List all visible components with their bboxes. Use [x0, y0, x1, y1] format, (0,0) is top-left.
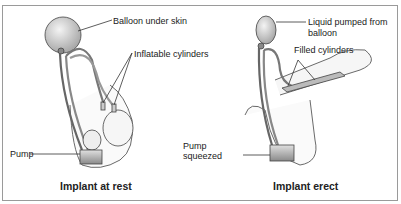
- label-pump-squeezed-line1: Pump: [183, 141, 207, 151]
- caption-implant-at-rest: Implant at rest: [60, 180, 132, 192]
- label-liquid-pumped-line2: balloon: [308, 28, 337, 38]
- label-liquid-pumped-line1: Liquid pumped from: [308, 17, 388, 27]
- label-pump: Pump: [10, 149, 34, 159]
- label-pump-squeezed-line2: squeezed: [183, 151, 222, 161]
- erect-illustration: [243, 16, 371, 165]
- implant-illustration: [0, 0, 401, 204]
- rest-illustration: [30, 17, 133, 168]
- label-filled-cylinders: Filled cylinders: [294, 45, 354, 55]
- caption-implant-erect: Implant erect: [273, 180, 338, 192]
- label-balloon-under-skin: Balloon under skin: [113, 16, 187, 26]
- label-inflatable-cylinders: Inflatable cylinders: [134, 49, 209, 59]
